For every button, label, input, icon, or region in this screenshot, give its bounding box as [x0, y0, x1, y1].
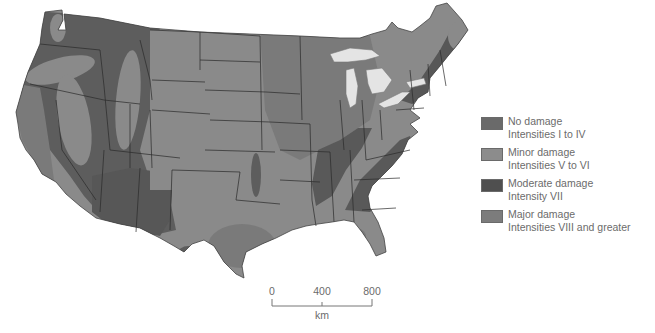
legend-swatch-major-damage [481, 210, 503, 223]
zone-kansas-moderate [251, 153, 261, 197]
legend-title: Minor damage [508, 146, 590, 159]
legend-item-no-damage: No damage Intensities I to IV [481, 116, 655, 147]
legend: No damage Intensities I to IV Minor dama… [481, 116, 655, 240]
zone-puget-minor [50, 14, 66, 42]
legend-title: No damage [508, 115, 586, 128]
scale-unit: km [315, 309, 329, 321]
zone-florida [398, 240, 420, 280]
legend-subtitle: Intensities VIII and greater [508, 221, 631, 234]
zone-plains [150, 30, 260, 190]
legend-subtitle: Intensity VII [508, 190, 593, 203]
legend-item-moderate-damage: Moderate damage Intensity VII [481, 178, 655, 209]
zone-charleston-minor [394, 194, 414, 210]
zone-texas-major [208, 224, 276, 268]
zone-maine-minor [448, 22, 468, 50]
legend-item-minor-damage: Minor damage Intensities V to VI [481, 147, 655, 178]
scale-bar: 0 400 800 km [262, 285, 382, 325]
zone-gulf-major [338, 227, 366, 245]
legend-item-major-damage: Major damage Intensities VIII and greate… [481, 209, 655, 240]
legend-title: Moderate damage [508, 177, 593, 190]
legend-swatch-moderate-damage [481, 179, 503, 192]
legend-title: Major damage [508, 208, 631, 221]
legend-swatch-minor-damage [481, 148, 503, 161]
legend-swatch-no-damage [481, 117, 503, 130]
legend-subtitle: Intensities V to VI [508, 159, 590, 172]
legend-subtitle: Intensities I to IV [508, 128, 586, 141]
